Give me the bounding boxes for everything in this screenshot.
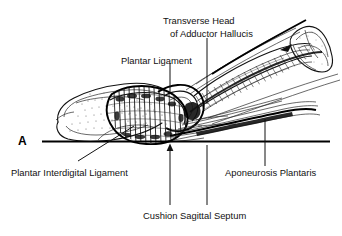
label-cushion-sagittal-septum: Cushion Sagittal Septum (143, 210, 246, 221)
label-plantar-ligament: Plantar Ligament (121, 55, 192, 66)
panel-letter-a: A (18, 134, 27, 148)
label-aponeurosis-plantaris: Aponeurosis Plantaris (225, 167, 317, 178)
label-transverse-head-line2: of Adductor Hallucis (170, 28, 253, 39)
anatomical-figure: A Transverse Head of Adductor Hallucis P… (0, 0, 342, 236)
label-plantar-interdigital-ligament: Plantar Interdigital Ligament (11, 167, 128, 178)
label-transverse-head-line1: Transverse Head (163, 15, 235, 26)
anatomy-illustration: A Transverse Head of Adductor Hallucis P… (0, 0, 342, 236)
